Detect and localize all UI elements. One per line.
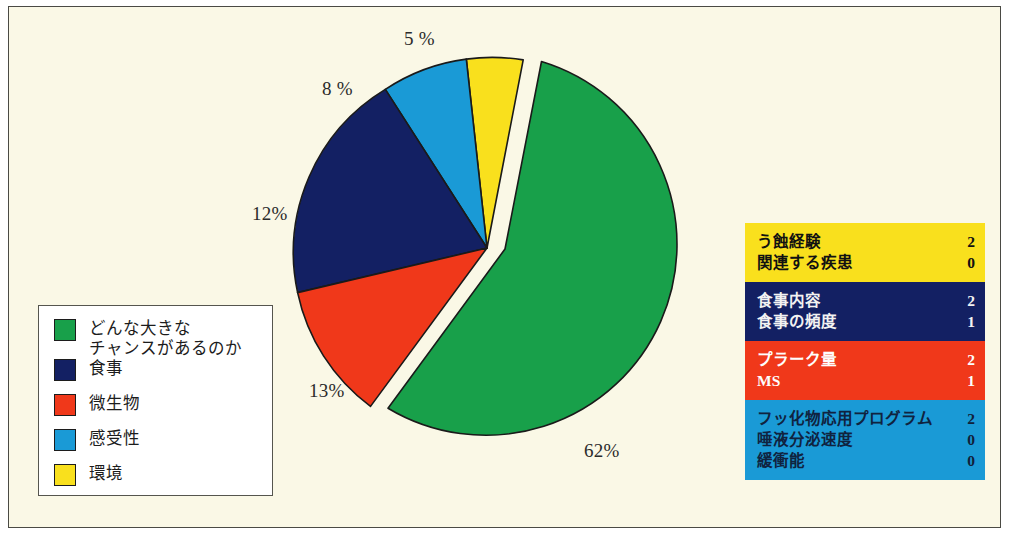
factor-value: 2 [967,408,975,429]
legend-item-diet[interactable]: 食事 [54,359,123,381]
factor-block-diet: 食事内容 2 食事の頻度 1 [745,282,985,341]
pie-label-5-percent: 5 % [404,28,435,50]
factor-block-environment: う蝕経験 2 関連する疾患 0 [745,223,985,282]
factor-label: 食事の頻度 [757,311,837,332]
pie-chart-figure: 5 % 8 % 12% 13% 62% どんな大きな チャンスがあるのか 食事 … [0,0,1013,543]
factor-value: 0 [967,450,975,471]
factor-row: 唾液分泌速度 0 [757,429,975,450]
factor-block-susceptibility: フッ化物応用プログラム 2 唾液分泌速度 0 緩衝能 0 [745,400,985,480]
pie-label-62-percent: 62% [584,440,620,462]
factor-label: MS [757,370,780,391]
pie-label-13-percent: 13% [309,380,345,402]
factor-row: 食事の頻度 1 [757,311,975,332]
factor-row: 緩衝能 0 [757,450,975,471]
legend-label-chance: どんな大きな チャンスがあるのか [89,319,242,359]
legend-label-diet: 食事 [89,359,123,379]
legend-label-susceptibility: 感受性 [89,429,140,449]
factor-value: 2 [967,231,975,252]
factor-label: プラーク量 [757,349,837,370]
factor-value: 1 [967,370,975,391]
factor-label: 食事内容 [757,290,821,311]
factor-label: フッ化物応用プログラム [757,408,933,429]
factor-row: う蝕経験 2 [757,231,975,252]
legend-label-environment: 環境 [89,464,123,484]
factor-label: 唾液分泌速度 [757,429,853,450]
legend-item-susceptibility[interactable]: 感受性 [54,429,140,451]
legend-swatch-red [54,394,76,416]
factor-value: 0 [967,429,975,450]
factor-value: 2 [967,349,975,370]
legend-item-environment[interactable]: 環境 [54,464,123,486]
legend-label-microorganism: 微生物 [89,394,140,414]
factor-row: 関連する疾患 0 [757,252,975,273]
factor-table: う蝕経験 2 関連する疾患 0 食事内容 2 食事の頻度 1 プラーク量 2 [745,223,985,480]
pie-label-12-percent: 12% [252,203,288,225]
legend-item-microorganism[interactable]: 微生物 [54,394,140,416]
factor-value: 1 [967,311,975,332]
legend-swatch-navy [54,359,76,381]
factor-label: 緩衝能 [757,450,805,471]
legend-swatch-green [54,319,76,341]
factor-block-microorganism: プラーク量 2 MS 1 [745,341,985,400]
legend-item-chance[interactable]: どんな大きな チャンスがあるのか [54,319,242,359]
legend-swatch-yellow [54,464,76,486]
factor-label: う蝕経験 [757,231,821,252]
factor-row: 食事内容 2 [757,290,975,311]
factor-label: 関連する疾患 [757,252,853,273]
factor-row: フッ化物応用プログラム 2 [757,408,975,429]
pie-label-8-percent: 8 % [322,78,353,100]
factor-row: MS 1 [757,370,975,391]
factor-row: プラーク量 2 [757,349,975,370]
legend-swatch-cyan [54,429,76,451]
chart-legend: どんな大きな チャンスがあるのか 食事 微生物 感受性 環境 [38,305,273,496]
factor-value: 2 [967,290,975,311]
factor-value: 0 [967,252,975,273]
